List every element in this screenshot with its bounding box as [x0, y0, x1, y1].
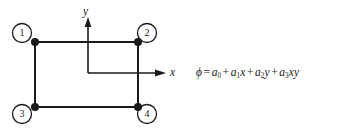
- equation-plus-sign-3: +: [270, 66, 280, 78]
- shape-function-equation: ϕ=a0+a1x+a2y+a3xy: [196, 66, 299, 80]
- node-label-2: 2: [137, 23, 157, 43]
- equation-plus-sign-1: +: [221, 66, 231, 78]
- equation-term-2-variable: y: [264, 66, 269, 78]
- node-label-1: 1: [12, 23, 32, 43]
- x-axis-label: x: [170, 66, 175, 78]
- node-dot-3[interactable]: [31, 103, 39, 111]
- equation-plus-sign-2: +: [245, 66, 255, 78]
- node-dot-1[interactable]: [31, 38, 39, 46]
- node-label-4: 4: [137, 104, 157, 124]
- node-label-3: 3: [12, 104, 32, 124]
- y-axis-label: y: [83, 5, 88, 17]
- equation-term-3-variable: xy: [289, 66, 299, 78]
- equation-equals-sign: =: [202, 66, 212, 78]
